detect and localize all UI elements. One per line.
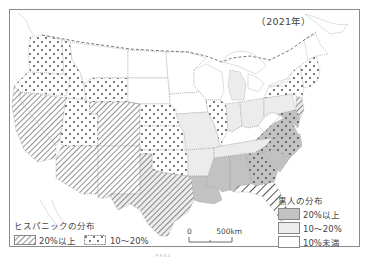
state-kansas bbox=[140, 126, 184, 150]
hispanic-20-plus-label: 20%以上 bbox=[39, 234, 76, 246]
light-gray-swatch-icon bbox=[278, 222, 300, 234]
credit-text: ＰＡＸＩ bbox=[155, 252, 171, 258]
hatch-swatch-icon bbox=[14, 235, 36, 245]
dark-gray-swatch-icon bbox=[278, 208, 300, 220]
state-wyoming bbox=[84, 78, 128, 102]
scale-start-label: 0 bbox=[187, 227, 192, 236]
scale-end-label: 500km bbox=[216, 227, 242, 236]
dots-swatch-icon bbox=[84, 235, 106, 245]
scale-line-icon bbox=[188, 237, 238, 243]
hispanic-10-20-label: 10〜20% bbox=[110, 234, 149, 246]
state-washington bbox=[28, 35, 64, 74]
hispanic-legend-row: 20%以上 10〜20% bbox=[14, 234, 149, 246]
hispanic-legend-title: ヒスパニックの分布 bbox=[14, 219, 149, 231]
hispanic-legend: ヒスパニックの分布 20%以上 10〜20% bbox=[14, 219, 149, 246]
black-under-10-label: 10%未満 bbox=[303, 236, 340, 248]
year-label: （2021年） bbox=[256, 14, 312, 28]
black-legend-title: 黒人の分布 bbox=[278, 194, 342, 206]
state-new-york bbox=[264, 66, 304, 98]
black-10-20-label: 10〜20% bbox=[303, 222, 342, 234]
black-legend-row: 10〜20% bbox=[278, 222, 342, 234]
state-north-dakota bbox=[128, 50, 168, 78]
state-arizona bbox=[56, 146, 98, 194]
black-legend-row: 10%未満 bbox=[278, 236, 342, 248]
black-legend-row: 20%以上 bbox=[278, 208, 342, 220]
state-south-dakota bbox=[128, 78, 170, 104]
black-20-plus-label: 20%以上 bbox=[303, 208, 340, 220]
white-swatch-icon bbox=[278, 236, 300, 248]
state-michigan bbox=[228, 70, 246, 100]
state-new-mexico bbox=[98, 146, 140, 198]
scale-bar: 0 500km bbox=[187, 227, 242, 236]
black-legend: 黒人の分布 20%以上 10〜20% 10%未満 bbox=[278, 194, 342, 248]
